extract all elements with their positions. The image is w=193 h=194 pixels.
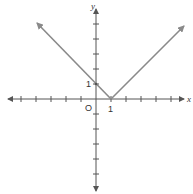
origin-label: O: [85, 103, 92, 113]
y-tick-label-1: 1: [86, 79, 91, 89]
y-axis: [93, 9, 99, 191]
y-axis-label: y: [90, 1, 95, 11]
function-graph: [37, 23, 184, 99]
x-tick-label-1: 1: [108, 104, 113, 114]
graph-canvas: y x O 1 1: [0, 0, 193, 194]
y-intercept-point: [95, 83, 98, 86]
x-axis-label: x: [186, 94, 191, 104]
